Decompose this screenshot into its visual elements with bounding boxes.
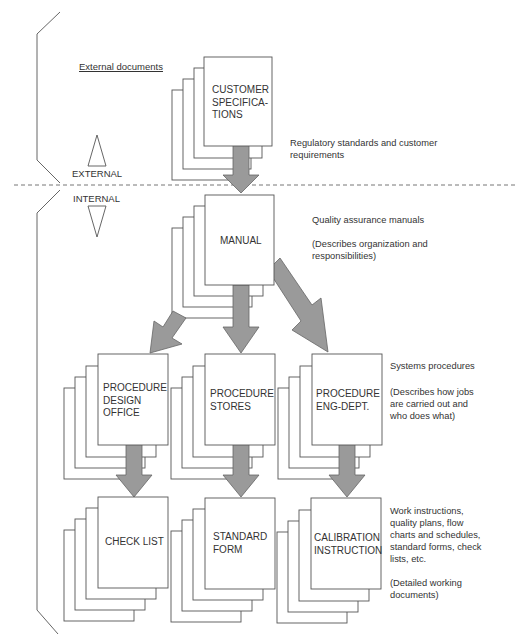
description-line: quality plans, flow [390, 517, 481, 529]
doc-stack-calibration-instruction [277, 498, 381, 623]
description-line: charts and schedules, [390, 529, 481, 541]
doc-stack-check-list [64, 497, 168, 621]
external-bracket [37, 12, 60, 183]
external-zone-label: EXTERNAL [72, 168, 122, 180]
doc-label-line: CUSTOMER [212, 84, 269, 97]
description-line: requirements [290, 149, 437, 161]
description-line: (Describes how jobs [390, 386, 475, 398]
doc-label-line: DESIGN [103, 395, 167, 408]
doc-label-line: STORES [210, 401, 274, 414]
description-procedures: Systems procedures (Describes how jobs a… [390, 360, 475, 422]
internal-zone-label: INTERNAL [73, 193, 120, 205]
doc-label-calibration-instruction: CALIBRATION INSTRUCTION [314, 532, 382, 557]
description-line: lists, etc. [390, 553, 481, 565]
doc-label-line: FORM [213, 544, 267, 557]
doc-label-line: SPECIFICA- [212, 97, 269, 110]
doc-label-line: INSTRUCTION [314, 545, 382, 558]
description-line: responsibilities) [312, 250, 428, 262]
doc-label-procedure-design-office: PROCEDURE DESIGN OFFICE [103, 382, 167, 420]
doc-label-standard-form: STANDARD FORM [213, 531, 267, 556]
doc-label-line: ENG-DEPT. [316, 401, 380, 414]
doc-label-line: PROCEDURE [210, 388, 274, 401]
doc-label-line: CALIBRATION [314, 532, 382, 545]
description-external: Regulatory standards and customer requir… [290, 137, 437, 161]
up-triangle-icon [88, 135, 106, 166]
doc-label-manual: MANUAL [220, 235, 262, 248]
description-work-instructions: Work instructions, quality plans, flow c… [390, 505, 481, 601]
description-title: Quality assurance manuals [312, 214, 428, 226]
doc-label-check-list: CHECK LIST [105, 536, 164, 549]
doc-label-line: PROCEDURE [316, 388, 380, 401]
description-title: Systems procedures [390, 360, 475, 372]
down-triangle-icon [88, 206, 106, 237]
description-line: (Describes organization and [312, 238, 428, 250]
description-manual: Quality assurance manuals (Describes org… [312, 214, 428, 262]
external-documents-heading: External documents [79, 61, 163, 73]
doc-label-line: STANDARD [213, 531, 267, 544]
description-line: Regulatory standards and customer [290, 137, 437, 149]
description-line: are carried out and [390, 398, 475, 410]
doc-label-line: CHECK LIST [105, 536, 164, 549]
doc-label-line: PROCEDURE [103, 382, 167, 395]
doc-label-customer-specifications: CUSTOMER SPECIFICA- TIONS [212, 84, 269, 122]
description-line: who does what) [390, 410, 475, 422]
doc-stack-standard-form [171, 498, 275, 622]
arrow-diagonal-right-icon [268, 258, 328, 352]
description-line: Work instructions, [390, 505, 481, 517]
description-line: (Detailed working [390, 577, 481, 589]
description-line: documents) [390, 589, 481, 601]
doc-label-procedure-eng-dept: PROCEDURE ENG-DEPT. [316, 388, 380, 413]
doc-label-line: OFFICE [103, 407, 167, 420]
doc-label-procedure-stores: PROCEDURE STORES [210, 388, 274, 413]
internal-bracket [37, 190, 60, 634]
description-line: standard forms, check [390, 541, 481, 553]
doc-label-line: TIONS [212, 109, 269, 122]
arrow-diagonal-left-icon [150, 311, 186, 353]
doc-label-line: MANUAL [220, 235, 262, 248]
